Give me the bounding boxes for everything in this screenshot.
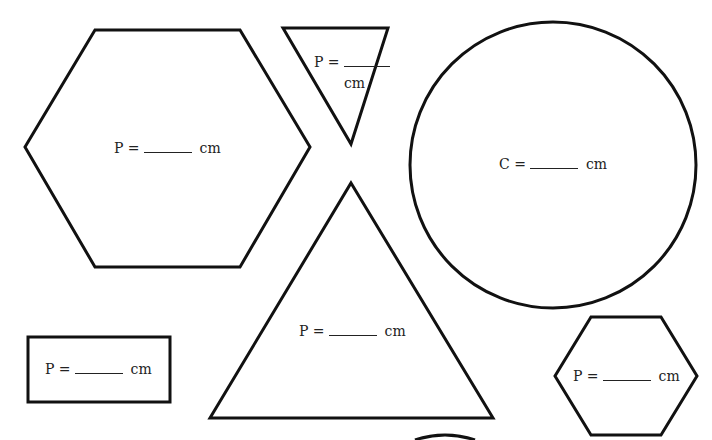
unit-label: cm	[131, 361, 152, 377]
small-hexagon-label: P =cm	[573, 369, 680, 383]
answer-blank[interactable]	[329, 335, 377, 336]
perimeter-symbol: P =	[573, 368, 599, 384]
large-triangle-label: P =cm	[299, 324, 406, 338]
unit-label: cm	[385, 323, 406, 339]
unit-label: cm	[659, 368, 680, 384]
small-triangle-label: P =	[314, 55, 390, 69]
answer-blank[interactable]	[75, 373, 123, 374]
perimeter-symbol: P =	[314, 54, 340, 70]
circumference-symbol: C =	[499, 156, 526, 172]
partial-shape-bottom	[415, 435, 475, 440]
perimeter-symbol: P =	[299, 323, 325, 339]
small-triangle-unit: cm	[344, 76, 365, 90]
perimeter-symbol: P =	[114, 140, 140, 156]
perimeter-symbol: P =	[45, 361, 71, 377]
unit-label: cm	[200, 140, 221, 156]
answer-blank[interactable]	[603, 380, 651, 381]
large-hexagon-label: P =cm	[114, 141, 221, 155]
answer-blank[interactable]	[530, 168, 578, 169]
answer-blank[interactable]	[144, 152, 192, 153]
unit-label: cm	[344, 75, 365, 91]
rectangle-label: P =cm	[45, 362, 152, 376]
unit-label: cm	[586, 156, 607, 172]
answer-blank[interactable]	[344, 66, 390, 67]
circle-label: C =cm	[499, 157, 607, 171]
